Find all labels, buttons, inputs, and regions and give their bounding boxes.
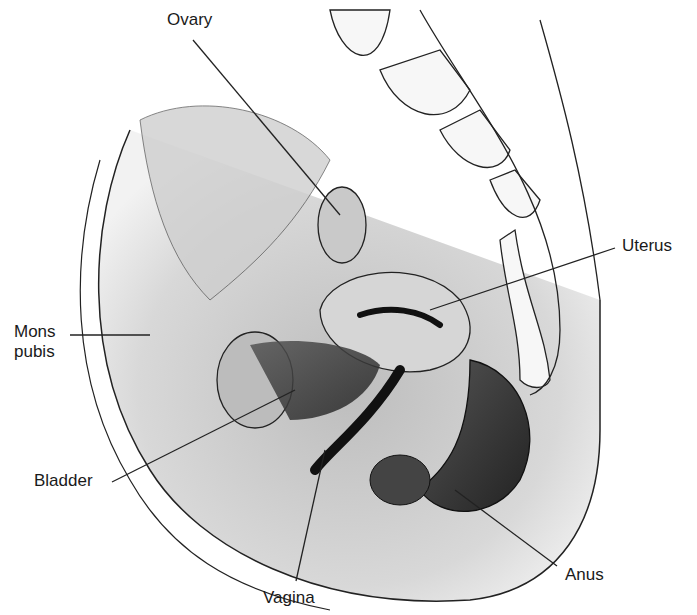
pelvis-illustration xyxy=(0,0,697,615)
label-mons-pubis: Mons pubis xyxy=(14,322,56,362)
label-ovary: Ovary xyxy=(167,10,212,30)
anatomy-diagram: Ovary Uterus Mons pubis Bladder Anus Vag… xyxy=(0,0,697,615)
label-uterus: Uterus xyxy=(622,236,672,256)
ovary-shape xyxy=(318,187,366,263)
label-vagina: Vagina xyxy=(263,588,315,608)
label-bladder: Bladder xyxy=(34,471,93,491)
label-anus: Anus xyxy=(565,565,604,585)
